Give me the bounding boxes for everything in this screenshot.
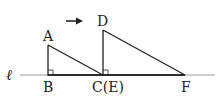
diagram-canvas: ℓ A B C(E) D F [0, 0, 223, 97]
right-angle-b [48, 70, 53, 75]
label-f: F [181, 79, 191, 95]
label-a: A [42, 28, 54, 44]
arrow-right-icon [76, 18, 83, 25]
triangle-def [103, 30, 185, 75]
triangle-diagram: ℓ A B C(E) D F [0, 0, 223, 97]
triangle-abc [48, 45, 103, 75]
label-d: D [97, 13, 108, 29]
line-l-label: ℓ [6, 66, 12, 84]
label-c-e: C(E) [92, 79, 124, 95]
right-angle-e [103, 70, 108, 75]
label-b: B [43, 79, 53, 95]
